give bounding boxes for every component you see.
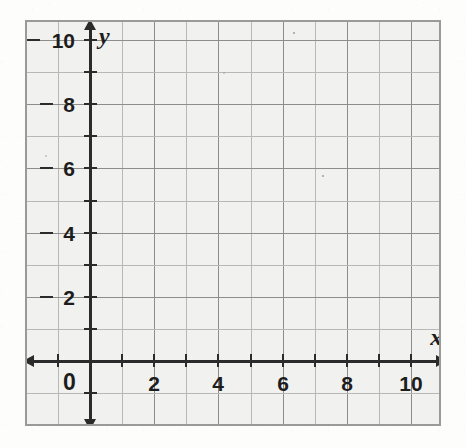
x-axis-tick [121,354,123,367]
x-axis-tick [185,354,187,367]
x-axis-arrow-left [25,355,34,367]
x-axis-tick [378,354,380,367]
axis-layer: 2468100246810xy [27,22,439,424]
x-axis-arrow-right [436,355,441,367]
y-tick-label-dash [40,167,53,169]
y-axis-name: y [99,24,110,48]
x-tick-label: 6 [277,373,289,394]
y-tick-label: 4 [63,223,75,244]
y-axis-tick [84,328,97,330]
x-axis-tick [250,354,252,367]
x-tick-label: 10 [399,373,422,394]
y-axis-arrow-down [84,419,96,426]
y-axis-tick [84,296,97,298]
x-axis-tick [410,354,412,367]
x-axis-tick [217,354,219,367]
y-axis-tick [84,135,97,137]
y-tick-label: 6 [63,158,75,179]
x-tick-label: 4 [212,373,224,394]
x-axis-tick [346,354,348,367]
x-axis-tick [282,354,284,367]
y-axis-tick [84,232,97,234]
y-tick-label: 8 [63,94,75,115]
y-axis-tick [84,392,97,394]
y-axis-tick [84,360,97,362]
x-axis-tick [314,354,316,367]
x-axis-tick [57,354,59,367]
y-tick-label: 2 [63,287,75,308]
origin-label: 0 [63,371,76,394]
x-axis-tick [153,354,155,367]
x-axis-name: x [430,325,441,349]
y-axis-arrow-up [84,20,96,30]
y-tick-label-dash [40,296,53,298]
y-tick-label-dash [40,232,53,234]
y-axis-tick [84,264,97,266]
y-axis-tick [84,167,97,169]
y-axis-tick [84,200,97,202]
y-axis-tick [84,71,97,73]
figure-page: 2468100246810xy [0,0,466,448]
gridline-horizontal-major [27,425,439,426]
y-tick-label-dash [40,103,53,105]
y-axis-tick [84,39,97,41]
y-tick-label: 10 [52,30,75,51]
y-tick-label-dash [27,39,40,41]
coordinate-grid-figure: 2468100246810xy [25,20,441,426]
x-tick-label: 8 [341,373,353,394]
y-axis-tick [84,103,97,105]
x-tick-label: 2 [148,373,160,394]
